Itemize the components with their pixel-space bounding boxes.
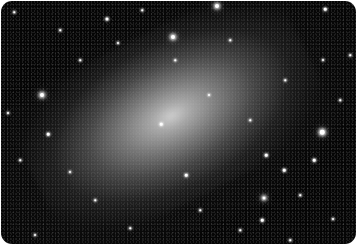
- star: [171, 35, 175, 39]
- star: [215, 4, 219, 8]
- star: [94, 199, 96, 201]
- star: [284, 79, 286, 81]
- star: [129, 227, 131, 229]
- star: [265, 154, 268, 157]
- star: [106, 18, 109, 21]
- star: [40, 93, 44, 97]
- galaxy-photo: [1, 1, 356, 244]
- star: [160, 123, 163, 126]
- star: [141, 9, 143, 11]
- star: [239, 229, 241, 231]
- star: [261, 219, 264, 222]
- star: [79, 59, 81, 61]
- star: [324, 8, 327, 11]
- star: [34, 234, 36, 236]
- star: [185, 174, 188, 177]
- star: [174, 59, 176, 61]
- star: [263, 197, 266, 200]
- star: [289, 239, 291, 241]
- star: [322, 59, 324, 61]
- star: [339, 99, 341, 101]
- star: [199, 209, 201, 211]
- star: [313, 159, 316, 162]
- star: [332, 218, 334, 220]
- star: [117, 42, 119, 44]
- star: [69, 171, 71, 173]
- star: [349, 54, 351, 56]
- star: [47, 133, 50, 136]
- star: [19, 159, 21, 161]
- star: [249, 119, 251, 121]
- star: [299, 194, 301, 196]
- star: [13, 11, 15, 13]
- star: [229, 39, 231, 41]
- star: [59, 29, 61, 31]
- star: [320, 130, 325, 135]
- star: [208, 94, 210, 96]
- star: [7, 112, 9, 114]
- star: [283, 169, 286, 172]
